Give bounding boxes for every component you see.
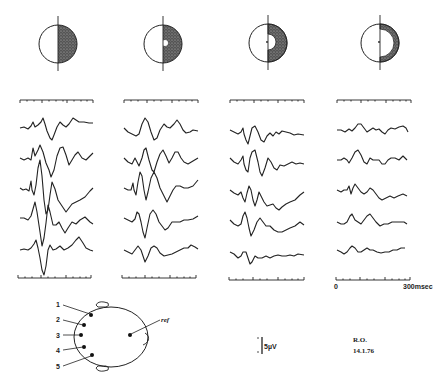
stimulus-diagram-3 (249, 15, 287, 70)
time-axis-top (20, 100, 93, 103)
trace-column-3 (229, 100, 304, 280)
trace-electrode-4 (337, 214, 407, 226)
time-axis-top (124, 100, 198, 103)
trace-electrode-2 (124, 148, 198, 172)
amplitude-scale-label: 5µV (264, 343, 277, 351)
trace-electrode-1 (230, 126, 304, 144)
electrode-4: 4 (56, 345, 86, 354)
trace-electrode-4 (124, 210, 198, 238)
electrode-3: 3 (56, 332, 83, 339)
electrode-5: 5 (56, 353, 94, 370)
electrode-1: 1 (56, 301, 93, 317)
trace-electrode-5 (124, 245, 198, 262)
trace-electrode-2 (20, 145, 93, 177)
trace-electrode-2 (337, 150, 407, 164)
trace-electrode-1 (124, 118, 198, 140)
trace-electrode-5 (337, 246, 405, 254)
trace-electrode-3 (20, 160, 93, 214)
trace-column-1 (18, 100, 93, 278)
svg-text:2: 2 (56, 316, 60, 323)
trace-column-4 (336, 100, 411, 280)
electrode-montage: 1 2 3 4 5 ref (56, 301, 170, 371)
time-axis-top (230, 100, 304, 103)
trace-electrode-1 (337, 124, 408, 134)
trace-column-2 (122, 100, 198, 278)
subject-label: R.O. (353, 336, 367, 344)
time-axis-bottom (229, 277, 304, 280)
svg-text:ref: ref (161, 316, 170, 324)
stimulus-diagram-4 (361, 15, 399, 70)
svg-text:5: 5 (56, 363, 60, 370)
trace-electrode-4 (20, 202, 93, 246)
amplitude-scale-bar: 5µV (257, 337, 277, 354)
trace-electrode-5 (230, 252, 304, 264)
reference-electrode: ref (128, 316, 170, 337)
trace-electrode-3 (230, 186, 304, 210)
time-axis-end-label: 300msec (403, 283, 433, 290)
trace-electrode-3 (337, 184, 407, 200)
time-axis-bottom (122, 275, 196, 278)
vep-figure: 0 300msec 1 2 3 4 5 (0, 0, 447, 381)
trace-electrode-4 (230, 212, 304, 236)
date-label: 14.1.76 (353, 347, 375, 355)
trace-electrode-3 (124, 172, 198, 202)
stimulus-diagram-2 (144, 16, 182, 71)
svg-text:4: 4 (56, 347, 60, 354)
time-axis-bottom (18, 275, 91, 278)
svg-text:3: 3 (56, 332, 60, 339)
svg-text:1: 1 (56, 301, 60, 308)
trace-electrode-1 (20, 118, 93, 140)
electrode-2: 2 (56, 316, 86, 327)
trace-electrode-5 (20, 237, 93, 275)
time-axis-start-label: 0 (334, 283, 338, 290)
trace-electrode-2 (230, 150, 304, 176)
stimulus-diagram-1 (39, 16, 77, 71)
time-axis-top (337, 100, 411, 103)
time-axis-bottom (336, 277, 410, 280)
